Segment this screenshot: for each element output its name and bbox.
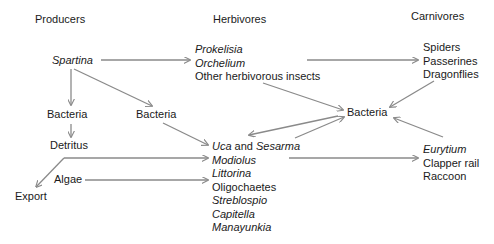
arrow-detritus-to-export <box>36 158 64 187</box>
arrow-carnivores-to-bacteria <box>390 81 434 107</box>
arrow-insects-to-bacteria <box>263 83 343 110</box>
arrow-eurytium-to-bacteria <box>394 118 443 137</box>
arrow-spartina-to-bacteria-mid <box>74 69 152 106</box>
arrow-bacteria-mid-to-uca <box>163 123 208 145</box>
arrows-layer <box>0 0 494 244</box>
